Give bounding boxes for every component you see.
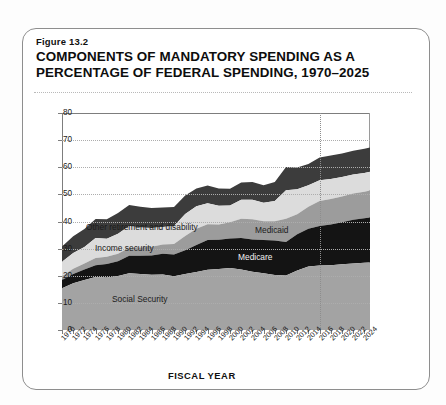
y-tick-label-70: 70 (32, 135, 72, 144)
gridline-y-10 (62, 303, 370, 304)
figure-title: COMPONENTS OF MANDATORY SPENDING AS A PE… (36, 49, 408, 80)
projection-divider-line (320, 113, 321, 330)
gridline-y-20 (62, 276, 370, 277)
y-tick-label-40: 40 (32, 217, 72, 226)
x-axis-title: FISCAL YEAR (168, 370, 236, 381)
y-tick-label-50: 50 (32, 189, 72, 198)
series-label-social-security: Social Security (112, 294, 167, 304)
y-tick-label-80: 80 (32, 108, 72, 117)
y-tick-label-10: 10 (32, 298, 72, 307)
figure-number: Figure 13.2 (36, 36, 88, 47)
series-label-income-security: Income security (95, 243, 154, 253)
gridline-y-60 (62, 167, 370, 168)
y-tick-label-20: 20 (32, 271, 72, 280)
series-label-medicare: Medicare (238, 252, 272, 262)
y-tick-label-60: 60 (32, 162, 72, 171)
gridline-y-70 (62, 140, 370, 141)
title-divider (34, 92, 412, 93)
gridline-y-50 (62, 194, 370, 195)
figure-root: Figure 13.2 COMPONENTS OF MANDATORY SPEN… (0, 0, 446, 405)
series-label-medicaid: Medicaid (255, 225, 289, 235)
y-tick-label-30: 30 (32, 244, 72, 253)
series-label-other-retirement-and-disability: Other retirement and disability (86, 222, 198, 232)
